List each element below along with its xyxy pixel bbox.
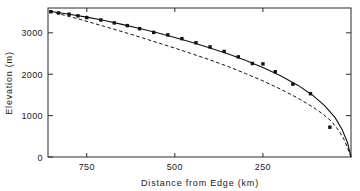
axis-ticks	[48, 8, 351, 157]
axis-tick-labels: 7505002500100020003000	[21, 28, 271, 172]
reference-curve-dashed	[50, 11, 351, 157]
data-point	[49, 10, 52, 13]
data-point	[138, 27, 141, 30]
y-tick-label: 3000	[21, 28, 43, 38]
data-point	[261, 62, 264, 65]
data-point	[99, 18, 102, 21]
figure-container: 7505002500100020003000 Distance from Edg…	[0, 0, 360, 191]
data-point	[113, 21, 116, 24]
data-point	[251, 62, 254, 65]
data-point	[67, 13, 70, 16]
data-point	[57, 11, 60, 14]
model-fit-curve-solid	[50, 11, 351, 157]
chart-canvas: 7505002500100020003000 Distance from Edg…	[0, 0, 360, 191]
data-point	[166, 33, 169, 36]
data-point	[180, 37, 183, 40]
data-point	[222, 50, 225, 53]
data-point	[76, 14, 79, 17]
data-point-markers	[49, 10, 331, 129]
data-point	[237, 55, 240, 58]
y-tick-label: 0	[38, 153, 43, 163]
data-point	[208, 45, 211, 48]
data-point	[328, 126, 331, 129]
data-point	[152, 31, 155, 34]
x-tick-label: 750	[79, 162, 95, 172]
y-axis-title: Elevation (m)	[4, 51, 14, 114]
data-point	[274, 70, 277, 73]
axes-frame	[48, 8, 351, 157]
y-tick-label: 2000	[21, 70, 43, 80]
data-point	[291, 82, 294, 85]
x-tick-label: 500	[167, 162, 183, 172]
data-point	[126, 24, 129, 27]
y-tick-label: 1000	[21, 111, 43, 121]
x-tick-label: 250	[255, 162, 271, 172]
data-point	[194, 41, 197, 44]
data-point	[309, 92, 312, 95]
x-axis-title: Distance from Edge (km)	[141, 178, 259, 188]
data-point	[85, 16, 88, 19]
